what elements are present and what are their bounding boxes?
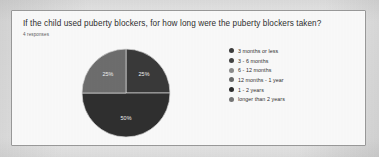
legend-item-label: 6 - 12 months bbox=[238, 67, 271, 73]
legend-color-swatch-icon bbox=[229, 48, 234, 53]
legend-item[interactable]: 6 - 12 months bbox=[229, 65, 349, 75]
legend-color-swatch-icon bbox=[229, 58, 234, 63]
pie-slice-group bbox=[82, 49, 170, 137]
pie-slice-percent-label: 25% bbox=[138, 71, 149, 77]
legend-item[interactable]: longer than 2 years bbox=[229, 94, 349, 104]
legend-item[interactable]: 3 - 6 months bbox=[229, 56, 349, 66]
legend-item-label: 3 - 6 months bbox=[238, 58, 268, 64]
legend-color-swatch-icon bbox=[229, 97, 234, 102]
legend-item[interactable]: 3 months or less bbox=[229, 46, 349, 56]
legend-item-label: longer than 2 years bbox=[238, 96, 285, 102]
legend-color-swatch-icon bbox=[229, 77, 234, 82]
pie-slice-percent-label: 50% bbox=[120, 115, 131, 121]
legend-item-label: 12 months - 1 year bbox=[238, 77, 284, 83]
chart-legend: 3 months or less3 - 6 months6 - 12 month… bbox=[229, 46, 349, 104]
legend-item-label: 3 months or less bbox=[238, 48, 278, 54]
legend-color-swatch-icon bbox=[229, 87, 234, 92]
legend-color-swatch-icon bbox=[229, 68, 234, 73]
pie-chart-svg: 25%50%25% bbox=[76, 43, 176, 143]
legend-item[interactable]: 12 months - 1 year bbox=[229, 75, 349, 85]
scanned-page: If the child used puberty blockers, for … bbox=[0, 0, 379, 157]
pie-slice-percent-label: 25% bbox=[102, 71, 113, 77]
form-response-card: If the child used puberty blockers, for … bbox=[11, 10, 366, 146]
legend-item[interactable]: 1 - 2 years bbox=[229, 85, 349, 95]
legend-item-label: 1 - 2 years bbox=[238, 87, 264, 93]
